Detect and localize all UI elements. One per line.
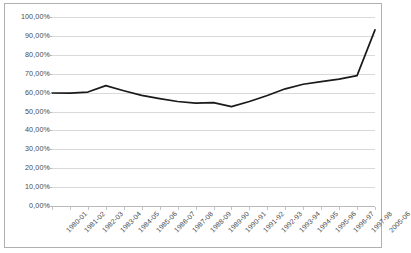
y-axis-tick-mark: [48, 93, 52, 94]
x-axis-tick-mark: [124, 207, 125, 210]
x-axis-tick-mark: [178, 207, 179, 210]
x-axis-tick-mark: [196, 207, 197, 210]
y-axis-tick-mark: [48, 74, 52, 75]
y-axis-tick-label: 60,00%: [6, 89, 50, 97]
x-axis-tick-mark: [231, 207, 232, 210]
y-axis-tick-mark: [48, 55, 52, 56]
plot-area: [52, 17, 375, 206]
x-axis-tick-mark: [160, 207, 161, 210]
y-axis-tick-mark: [48, 149, 52, 150]
x-axis-tick-mark: [249, 207, 250, 210]
y-axis-tick-label: 70,00%: [6, 70, 50, 78]
y-axis-tick-mark: [48, 112, 52, 113]
x-axis: 1980-011981-021982-031983-041984-051985-…: [5, 210, 383, 253]
y-axis-tick-mark: [48, 187, 52, 188]
y-axis-tick-mark: [48, 17, 52, 18]
x-axis-tick-mark: [106, 207, 107, 210]
x-axis-tick-mark: [303, 207, 304, 210]
x-axis-tick-mark: [267, 207, 268, 210]
y-axis: 0,00%10,00%20,00%30,00%40,00%50,00%60,00…: [5, 4, 50, 214]
chart-frame: 0,00%10,00%20,00%30,00%40,00%50,00%60,00…: [4, 3, 382, 248]
x-axis-tick-mark: [375, 207, 376, 210]
x-axis-tick-mark: [214, 207, 215, 210]
x-axis-tick-mark: [142, 207, 143, 210]
x-axis-tick-mark: [357, 207, 358, 210]
y-axis-tick-label: 50,00%: [6, 108, 50, 116]
line-series: [52, 17, 375, 206]
x-axis-tick-mark: [285, 207, 286, 210]
x-axis-tick-mark: [70, 207, 71, 210]
y-axis-tick-label: 30,00%: [6, 145, 50, 153]
y-axis-tick-label: 10,00%: [6, 183, 50, 191]
y-axis-tick-mark: [48, 130, 52, 131]
y-axis-tick-label: 90,00%: [6, 32, 50, 40]
series-polyline: [52, 30, 375, 107]
x-axis-tick-mark: [339, 207, 340, 210]
x-axis-tick-mark: [321, 207, 322, 210]
x-axis-tick-mark: [52, 207, 53, 210]
y-axis-tick-label: 80,00%: [6, 51, 50, 59]
x-axis-tick-mark: [88, 207, 89, 210]
y-axis-tick-label: 20,00%: [6, 164, 50, 172]
y-axis-tick-mark: [48, 168, 52, 169]
y-axis-tick-mark: [48, 36, 52, 37]
y-axis-tick-label: 100,00%: [6, 13, 50, 21]
y-axis-tick-label: 0,00%: [6, 202, 50, 210]
y-axis-tick-label: 40,00%: [6, 126, 50, 134]
